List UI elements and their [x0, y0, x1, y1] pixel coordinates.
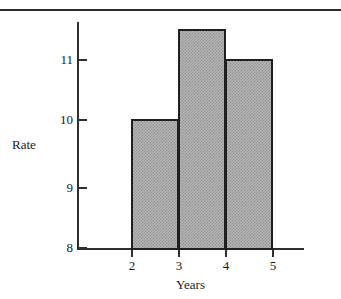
x-tick-mark-4 — [225, 250, 227, 257]
y-tick-mark-8 — [79, 247, 87, 249]
x-tick-label-2: 2 — [120, 259, 144, 273]
x-tick-mark-5 — [272, 250, 274, 257]
y-tick-label-8: 8 — [45, 241, 73, 254]
x-tick-label-4: 4 — [214, 259, 238, 273]
y-axis-line — [77, 22, 79, 250]
y-tick-label-9: 9 — [45, 181, 73, 194]
histogram-plot: 8 9 10 11 2 3 4 5 Rate Years — [0, 0, 341, 299]
y-tick-mark-10 — [79, 119, 87, 121]
bar-4-5 — [225, 59, 273, 250]
y-tick-mark-9 — [79, 187, 87, 189]
x-tick-label-3: 3 — [167, 259, 191, 273]
y-tick-label-10: 10 — [45, 113, 73, 126]
bar-2-3 — [131, 119, 179, 250]
x-tick-mark-3 — [178, 250, 180, 257]
x-tick-label-5: 5 — [261, 259, 285, 273]
x-axis-label: Years — [77, 278, 304, 292]
y-axis-label: Rate — [12, 138, 36, 152]
y-tick-mark-11 — [79, 59, 87, 61]
y-tick-label-11: 11 — [45, 53, 73, 66]
x-tick-mark-2 — [131, 250, 133, 257]
bar-3-4 — [178, 29, 226, 250]
